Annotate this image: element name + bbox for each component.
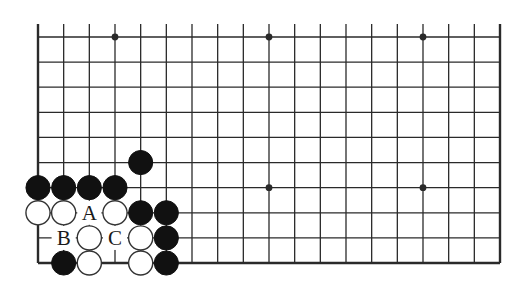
black-stone — [52, 251, 76, 275]
point-label-c: C — [108, 226, 122, 250]
star-point — [266, 34, 273, 41]
black-stone — [77, 176, 101, 200]
white-stone — [77, 251, 101, 275]
star-point — [420, 184, 427, 191]
black-stone — [154, 226, 178, 250]
black-stone — [52, 176, 76, 200]
star-point — [266, 184, 273, 191]
white-stone — [103, 201, 127, 225]
white-stone — [129, 226, 153, 250]
star-point — [420, 34, 427, 41]
black-stone — [26, 176, 50, 200]
point-label-a: A — [82, 201, 98, 225]
star-point — [112, 34, 119, 41]
black-stone — [154, 201, 178, 225]
black-stone — [103, 176, 127, 200]
white-stone — [26, 201, 50, 225]
point-label-b: B — [57, 226, 71, 250]
white-stone — [52, 201, 76, 225]
white-stone — [77, 226, 101, 250]
black-stone — [154, 251, 178, 275]
black-stone — [129, 150, 153, 174]
white-stone — [129, 251, 153, 275]
go-board: ABC — [0, 0, 529, 292]
black-stone — [129, 201, 153, 225]
